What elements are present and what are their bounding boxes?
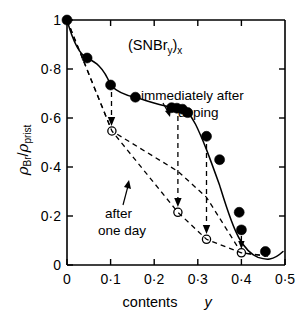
doping-marker xyxy=(62,15,72,25)
plot-title-text: (SNBry)x xyxy=(128,37,182,56)
x-tick-label-3: 0·3 xyxy=(188,271,208,287)
x-tick-labels: 0 0·1 0·2 0·3 0·4 0·5 xyxy=(63,271,295,287)
x-axis-title-main: contents xyxy=(123,294,178,310)
x-tick-label-2: 0·2 xyxy=(144,271,164,287)
title-main: SNBr xyxy=(133,37,168,53)
drop-arrow-head xyxy=(174,198,181,207)
annotation-oneday-leader xyxy=(123,186,128,205)
annotation-doping-line2: doping xyxy=(178,105,219,120)
doping-marker xyxy=(82,53,92,63)
y-tick-label-0: 0 xyxy=(53,257,61,273)
doping-marker xyxy=(215,155,225,165)
figure-container: 0 0·2 0·4 0·6 0·8 1 0 0·1 0·2 0·3 0·4 0·… xyxy=(0,0,308,319)
y-tick-label-3: 0·6 xyxy=(41,110,61,126)
doping-marker xyxy=(106,80,116,90)
x-tick-label-5: 0·5 xyxy=(275,271,295,287)
chart-svg: 0 0·2 0·4 0·6 0·8 1 0 0·1 0·2 0·3 0·4 0·… xyxy=(0,0,308,319)
title-sub-x: x xyxy=(177,45,182,56)
plot-title: (SNBry)x xyxy=(128,37,182,56)
annotation-after-one-day: after one day xyxy=(98,180,146,238)
series-after-one-day xyxy=(67,20,266,257)
y-tick-label-2: 0·4 xyxy=(41,159,61,175)
doping-marker xyxy=(234,207,244,217)
y-title-rho-2: ρ xyxy=(14,143,32,153)
annotation-doping-line1: immediately after xyxy=(141,88,244,103)
x-tick-label-4: 0·4 xyxy=(231,271,251,287)
y-tick-label-1: 0·2 xyxy=(41,208,61,224)
annotation-oneday-line1: after xyxy=(105,206,133,221)
y-title-rho-1: ρ xyxy=(14,166,32,176)
y-axis-title: ρBr/ρprist xyxy=(14,124,33,176)
annotation-doping-arrowhead xyxy=(165,109,171,117)
after-one-day-curve xyxy=(67,20,266,256)
doping-marker xyxy=(130,92,140,102)
annotation-oneday-arrowhead xyxy=(124,180,131,189)
y-tick-label-4: 0·8 xyxy=(41,61,61,77)
doping-marker xyxy=(202,131,212,141)
x-tick-label-1: 0·1 xyxy=(100,271,120,287)
y-title-sub-prist: prist xyxy=(22,124,33,143)
x-tick-label-0: 0 xyxy=(63,271,71,287)
drop-arrow-head xyxy=(203,225,210,234)
x-axis-title: contents y xyxy=(123,294,213,310)
doping-marker xyxy=(260,247,270,257)
x-axis-title-variable: y xyxy=(203,294,212,310)
doping-marker xyxy=(236,225,246,235)
y-axis-title-text: ρBr/ρprist xyxy=(14,124,33,176)
y-tick-label-5: 1 xyxy=(53,12,61,28)
annotation-oneday-line2: one day xyxy=(98,223,146,238)
y-tick-labels: 0 0·2 0·4 0·6 0·8 1 xyxy=(41,12,61,273)
